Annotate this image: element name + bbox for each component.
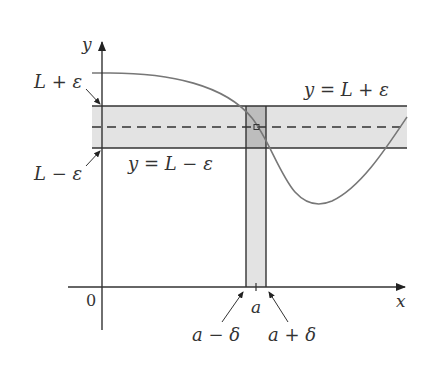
a-plus-delta-label: a + δ: [268, 324, 316, 345]
a-plus-delta-pointer: [269, 292, 288, 322]
a-minus-delta-label: a − δ: [192, 324, 240, 345]
lower-epsilon-label: L − ε: [33, 163, 82, 184]
a-minus-delta-pointer: [222, 292, 243, 322]
origin-label: 0: [86, 291, 96, 310]
epsilon-delta-diagram: y x 0 L + ε L − ε y = L + ε y = L − ε a …: [0, 0, 428, 386]
upper-line-equation: y = L + ε: [303, 79, 389, 100]
lower-line-equation: y = L − ε: [127, 153, 213, 174]
upper-epsilon-label: L + ε: [33, 71, 82, 92]
upper-epsilon-pointer: [86, 89, 100, 104]
lower-epsilon-pointer: [86, 151, 100, 166]
x-axis-label: x: [396, 291, 406, 311]
a-label: a: [251, 297, 261, 317]
y-axis-label: y: [81, 34, 92, 54]
